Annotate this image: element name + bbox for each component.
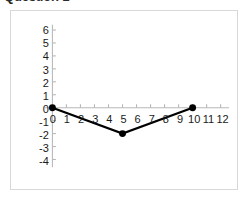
data-point-markers [49,104,196,137]
data-point-marker [119,130,126,137]
series-layer [52,108,192,134]
data-point-marker [49,104,56,111]
line-chart-plot [11,11,237,189]
axes-layer [45,25,229,167]
data-point-marker [189,104,196,111]
chart-frame: 6543210-1-2-3-4 0123456789101112 [10,10,238,190]
page-title: Question 1 [4,0,69,4]
series-line [52,108,192,134]
